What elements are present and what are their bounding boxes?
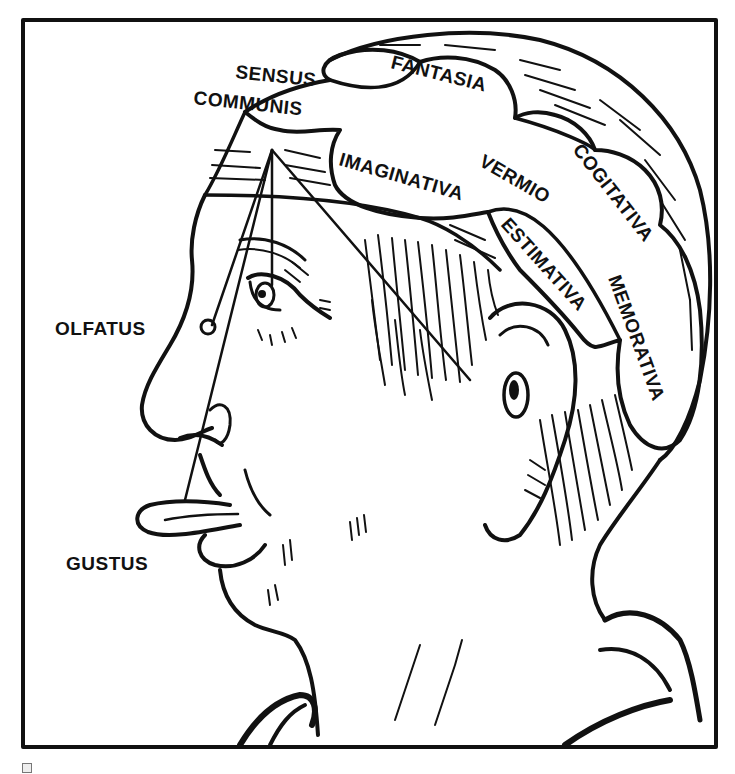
neck-and-shoulders: [240, 460, 700, 745]
neck-marks-2: [435, 640, 462, 725]
tongue: [137, 501, 240, 535]
forehead-ridge: [205, 112, 245, 195]
tongue-groove: [165, 514, 238, 520]
ear-outline: [485, 304, 576, 541]
under-eye-marks: [258, 328, 296, 345]
label-sensus: SENSUS: [235, 61, 318, 90]
throat-marks: [350, 515, 366, 540]
collar-left: [240, 695, 315, 745]
illustration: SENSUS COMMUNIS FANTASIA IMAGINATIVA VER…: [0, 0, 735, 774]
line-to-gustus: [185, 150, 272, 500]
frame-border: [23, 20, 716, 747]
cloth-fold-left: [270, 705, 305, 745]
line-to-olfatus: [212, 150, 272, 325]
neck-marks-1: [395, 645, 420, 720]
neck-back: [592, 460, 660, 620]
corner-marker: [22, 763, 32, 773]
ear: [485, 304, 576, 541]
ear-canal-shadow: [509, 380, 519, 400]
hair-hatching: [365, 235, 632, 545]
cheek-line: [245, 470, 270, 515]
collar-right: [600, 649, 670, 690]
beard-marks: [268, 540, 292, 605]
lower-lip: [199, 535, 265, 566]
label-imaginativa: IMAGINATIVA: [337, 149, 466, 205]
label-memorativa: MEMORATIVA: [604, 272, 669, 403]
upper-lip: [200, 455, 220, 495]
nose-outline: [142, 195, 212, 440]
brow-band: [205, 195, 500, 270]
label-vermio: VERMIO: [476, 150, 554, 207]
labels: SENSUS COMMUNIS FANTASIA IMAGINATIVA VER…: [55, 52, 669, 574]
label-gustus: GUSTUS: [66, 553, 148, 574]
ear-helix: [500, 326, 548, 345]
pupil: [258, 290, 266, 298]
eye: [238, 239, 330, 345]
label-olfatus: OLFATUS: [55, 318, 146, 339]
label-cogitativa: COGITATIVA: [569, 140, 658, 246]
cloth-fold-right: [565, 700, 670, 745]
olfatus-node: [201, 320, 215, 334]
head-diagram: SENSUS COMMUNIS FANTASIA IMAGINATIVA VER…: [0, 0, 735, 774]
ear-lobe-marks: [525, 460, 545, 498]
